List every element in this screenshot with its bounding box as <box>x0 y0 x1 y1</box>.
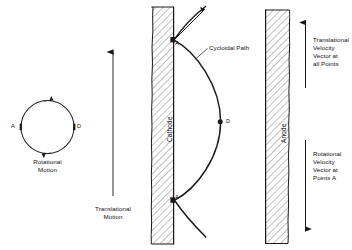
cycloid-main-arch <box>174 40 220 200</box>
rotational-velocity-label-line1: Rotational <box>313 150 341 158</box>
cusp-upper-a-label: A <box>175 40 179 46</box>
cusp-lower-a-label: A <box>175 194 179 200</box>
rotational-velocity-label-line4: Points A <box>313 174 336 182</box>
velocity-vector-at-upper-a <box>174 11 204 41</box>
circle-point-a-label: A <box>11 123 15 129</box>
cycloidal-path-leader <box>196 49 208 59</box>
cathode-label: Cathode <box>166 116 173 142</box>
translational-motion-label-line2: Motion <box>76 213 150 221</box>
rotational-motion-label-line1: Rotational <box>13 158 82 166</box>
cycloidal-motion-diagram: A D Rotational Motion Translational Moti… <box>0 0 352 250</box>
translational-motion-label-line1: Translational <box>76 205 150 213</box>
point-d-marker <box>218 119 223 124</box>
circle-point-d-label: D <box>77 123 81 129</box>
rotation-arrowhead-top <box>44 100 52 101</box>
circle-point-a-marker <box>20 124 22 131</box>
translational-velocity-label-line3: Vector at <box>313 52 338 60</box>
rotation-arrowhead-bottom <box>44 153 52 154</box>
translational-velocity-label-line1: Translational <box>313 36 349 44</box>
point-d-label: D <box>226 118 230 124</box>
rotational-velocity-label-line3: Vector at <box>313 166 338 174</box>
translational-velocity-label-line4: all Points <box>313 60 339 68</box>
circle-point-d-marker <box>73 124 75 131</box>
rotational-velocity-label-line2: Velocity <box>313 158 335 166</box>
translational-velocity-label-line2: Velocity <box>313 44 335 52</box>
rotational-motion-circle <box>20 100 76 154</box>
cycloidal-path-label: Cycloidal Path <box>209 44 249 52</box>
anode-label: Anode <box>280 124 287 143</box>
rotational-motion-label-line2: Motion <box>13 166 82 174</box>
cycloid-lower-tail <box>174 200 206 237</box>
diagram-canvas <box>0 0 352 250</box>
